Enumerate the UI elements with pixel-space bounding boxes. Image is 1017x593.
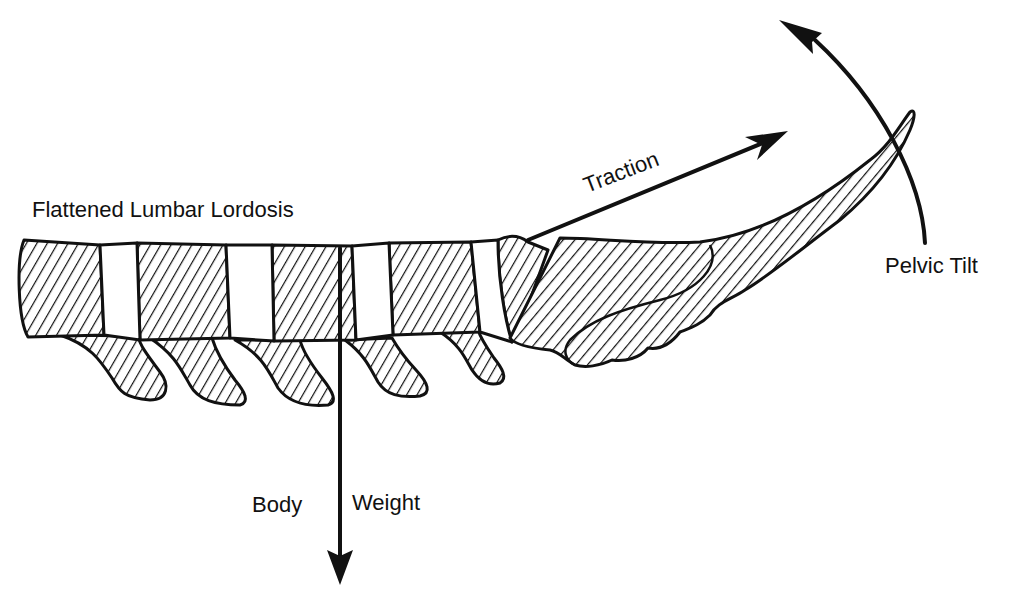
vertebra-L1 <box>19 240 104 337</box>
label-pelvic-tilt: Pelvic Tilt <box>885 253 978 278</box>
diagram-canvas: Flattened Lumbar Lordosis Traction Pelvi… <box>0 0 1017 593</box>
label-flattened-lumbar-lordosis: Flattened Lumbar Lordosis <box>32 197 294 222</box>
vertebra-L4 <box>389 242 480 335</box>
disc-2 <box>226 245 274 341</box>
vertebra-L2 <box>137 243 230 340</box>
disc-1 <box>100 243 140 340</box>
traction-arrow <box>528 131 788 240</box>
label-weight: Weight <box>352 490 420 515</box>
spine-diagram: Flattened Lumbar Lordosis Traction Pelvi… <box>0 0 1017 593</box>
disc-3 <box>352 243 393 340</box>
label-body: Body <box>252 492 302 517</box>
sacrum <box>510 111 914 366</box>
vertebra-L3 <box>272 245 356 341</box>
lumbar-vertebrae <box>19 236 548 342</box>
